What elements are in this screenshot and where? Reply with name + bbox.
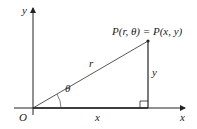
radius-label: r (89, 58, 93, 69)
angle-label: θ (65, 83, 70, 94)
polar-diagram (0, 0, 197, 129)
right-angle-mark (140, 101, 148, 108)
angle-arc (57, 94, 61, 108)
y-axis-label: y (22, 5, 27, 16)
vertical-leg-label: y (152, 67, 157, 78)
point-p (146, 39, 149, 42)
horizontal-leg-label: x (95, 112, 100, 123)
origin-label: O (19, 112, 27, 123)
radius-line (33, 41, 148, 108)
x-axis-label: x (180, 112, 185, 123)
point-label: P(r, θ) = P(x, y) (112, 26, 182, 37)
